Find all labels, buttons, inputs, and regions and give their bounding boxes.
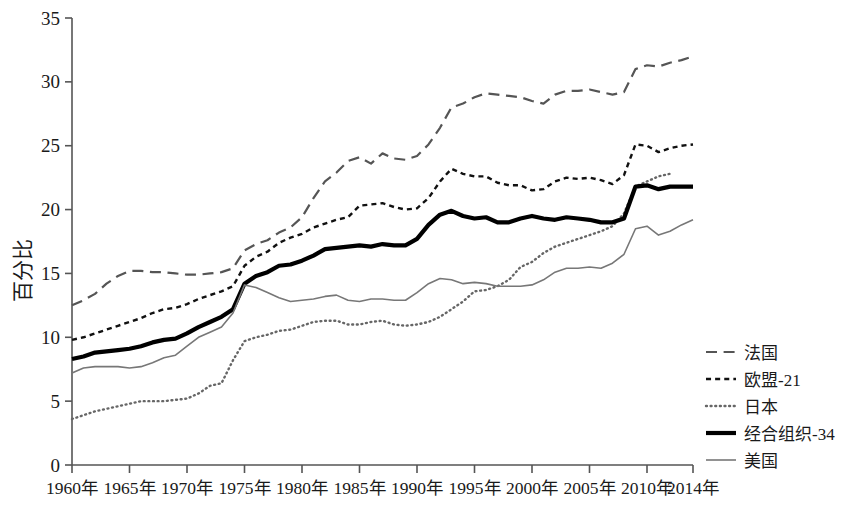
y-tick-label: 30 — [41, 71, 60, 92]
x-tick-label: 1975年 — [219, 478, 271, 498]
legend-label-japan[interactable]: 日本 — [744, 398, 778, 417]
legend-label-france[interactable]: 法国 — [744, 344, 778, 363]
y-tick-label: 10 — [41, 327, 60, 348]
y-tick-label: 20 — [41, 199, 60, 220]
x-tick-label: 2014年 — [667, 478, 719, 498]
y-axis-title: 百分比 — [11, 239, 35, 302]
chart-background — [0, 0, 843, 513]
x-tick-label: 1980年 — [276, 478, 328, 498]
x-tick-label: 1990年 — [391, 478, 443, 498]
y-tick-label: 15 — [41, 263, 60, 284]
legend-label-eu21[interactable]: 欧盟-21 — [744, 371, 801, 390]
x-tick-label: 1970年 — [161, 478, 213, 498]
legend-label-oecd34[interactable]: 经合组织-34 — [744, 425, 835, 444]
x-tick-label: 2005年 — [564, 478, 616, 498]
y-tick-label: 0 — [51, 455, 61, 476]
chart-figure: 05101520253035 1960年1965年1970年1975年1980年… — [0, 0, 843, 513]
x-tick-label: 1965年 — [104, 478, 156, 498]
legend-label-usa[interactable]: 美国 — [744, 452, 778, 471]
x-tick-label: 2000年 — [506, 478, 558, 498]
x-tick-label: 2010年 — [621, 478, 673, 498]
y-axis-title-text: 百分比 — [11, 239, 35, 302]
y-tick-label: 25 — [41, 135, 60, 156]
y-tick-label: 35 — [41, 8, 60, 29]
line-chart: 05101520253035 1960年1965年1970年1975年1980年… — [0, 0, 843, 513]
x-tick-label: 1995年 — [449, 478, 501, 498]
x-tick-label: 1960年 — [46, 478, 98, 498]
y-tick-label: 5 — [51, 391, 61, 412]
x-tick-label: 1985年 — [334, 478, 386, 498]
